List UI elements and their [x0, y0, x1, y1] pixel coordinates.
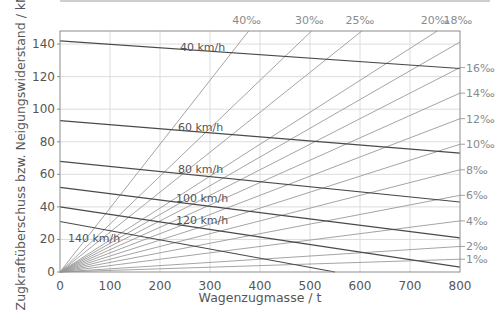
y-axis-ticks: 020406080100120140: [32, 37, 60, 279]
y-tick-label: 0: [47, 265, 55, 279]
y-tick-label: 140: [32, 37, 55, 51]
gradient-label: 2‰: [466, 240, 488, 253]
speed-label: 80 km/h: [178, 163, 223, 176]
x-tick-label: 700: [399, 279, 422, 293]
gradient-label: 12‰: [466, 113, 495, 126]
line-labels: 1‰2‰4‰6‰8‰10‰12‰14‰16‰18‰20‰25‰30‰40‰40 …: [68, 14, 495, 266]
gradient-label: 10‰: [466, 138, 495, 151]
x-tick-label: 600: [349, 279, 372, 293]
gradient-label: 16‰: [466, 62, 495, 75]
y-tick-label: 120: [32, 70, 55, 84]
x-tick-label: 200: [149, 279, 172, 293]
speed-label: 40 km/h: [180, 41, 225, 54]
gradient-label: 6‰: [466, 189, 488, 202]
speed-label: 120 km/h: [176, 214, 228, 227]
gradient-label: 4‰: [466, 215, 488, 228]
chart: 0100200300400500600700800 02040608010012…: [0, 0, 504, 320]
y-tick-label: 100: [32, 102, 55, 116]
gradient-label: 20‰: [421, 14, 450, 27]
gradient-label: 25‰: [345, 14, 374, 27]
x-axis-label: Wagenzugmasse / t: [199, 290, 322, 305]
speed-label: 140 km/h: [68, 232, 120, 245]
y-tick-label: 40: [40, 200, 55, 214]
speed-label: 100 km/h: [176, 192, 228, 205]
y-axis-label: Zugkraftüberschuss bzw. Neigungswidersta…: [13, 0, 28, 310]
y-tick-label: 20: [40, 232, 55, 246]
x-tick-label: 100: [99, 279, 122, 293]
gradient-label: 30‰: [295, 14, 324, 27]
y-tick-label: 80: [40, 135, 55, 149]
speed-label: 60 km/h: [178, 121, 223, 134]
y-tick-label: 60: [40, 167, 55, 181]
gradient-label: 14‰: [466, 87, 495, 100]
x-tick-label: 0: [56, 279, 64, 293]
x-tick-label: 800: [449, 279, 472, 293]
gradient-label: 1‰: [466, 253, 488, 266]
gradient-label: 40‰: [232, 14, 261, 27]
gradient-label: 8‰: [466, 164, 488, 177]
